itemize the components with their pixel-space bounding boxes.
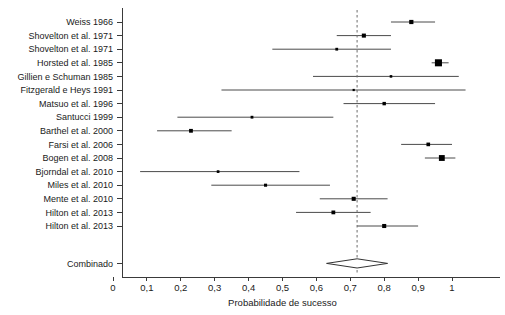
study-label: Horsted et al. 1985 — [37, 58, 113, 68]
effect-estimate-marker — [362, 34, 366, 38]
study-label: Hilton et al. 2013 — [45, 221, 113, 231]
summary-diamond — [327, 259, 388, 268]
forest-row — [357, 224, 418, 228]
forest-plot-figure: Weiss 1966Shovelton et al. 1971Shovelton… — [0, 0, 505, 315]
effect-estimate-marker — [435, 59, 442, 66]
effect-estimate-marker — [382, 102, 385, 105]
study-label: Santucci 1999 — [56, 112, 113, 122]
x-axis-tick-label: 0,5 — [276, 282, 289, 293]
forest-row — [425, 155, 456, 161]
study-label: Matsuo et al. 1996 — [39, 99, 113, 109]
effect-estimate-marker — [439, 155, 445, 161]
x-axis-tick-label: 0,2 — [174, 282, 187, 293]
study-label: Barthel et al. 2000 — [40, 126, 113, 136]
effect-estimate-marker — [390, 75, 393, 78]
forest-plot-canvas: Weiss 1966Shovelton et al. 1971Shovelton… — [0, 0, 505, 315]
forest-row — [337, 34, 391, 38]
summary-label: Combinado — [67, 259, 113, 269]
study-label: Weiss 1966 — [66, 17, 113, 27]
forest-row — [320, 197, 388, 201]
forest-row — [140, 170, 299, 173]
study-label: Gillien e Schuman 1985 — [17, 72, 113, 82]
effect-estimate-marker — [251, 116, 254, 119]
x-axis-ticks-group: 00,10,20,30,40,50,60,70,80,91 — [110, 277, 454, 293]
x-axis-tick-label: 0,1 — [140, 282, 153, 293]
x-axis-tick-label: 0,4 — [242, 282, 255, 293]
study-label: Fitzgerald e Heys 1991 — [20, 85, 113, 95]
study-label: Shovelton et al. 1971 — [28, 31, 113, 41]
effect-estimate-marker — [335, 48, 338, 51]
forest-rows-group — [140, 20, 465, 228]
forest-row — [401, 143, 452, 147]
study-label: Mente et al. 2010 — [43, 194, 113, 204]
x-axis-tick-label: 0 — [110, 282, 115, 293]
forest-row — [391, 20, 435, 24]
x-axis-tick-label: 0,3 — [208, 282, 221, 293]
study-label: Farsi et al. 2006 — [48, 140, 113, 150]
effect-estimate-marker — [352, 197, 356, 201]
summary-diamond-group: Combinado — [67, 259, 388, 269]
study-label: Shovelton et al. 1971 — [28, 44, 113, 54]
forest-row — [221, 89, 465, 91]
effect-estimate-marker — [264, 184, 267, 187]
study-label: Miles et al. 2010 — [47, 180, 113, 190]
forest-row — [272, 48, 391, 51]
forest-row — [313, 75, 459, 78]
effect-estimate-marker — [331, 211, 335, 215]
x-axis-tick-label: 0,8 — [378, 282, 391, 293]
x-axis-group — [122, 8, 500, 277]
effect-estimate-marker — [189, 129, 193, 133]
effect-estimate-marker — [426, 143, 430, 147]
forest-row — [432, 59, 449, 66]
forest-row — [211, 184, 330, 187]
x-axis-tick-label: 0,6 — [310, 282, 323, 293]
x-axis-tick-label: 0,7 — [344, 282, 357, 293]
x-axis-tick-label: 0,9 — [411, 282, 424, 293]
forest-row — [157, 129, 232, 133]
study-label: Bjorndal et al. 2010 — [35, 167, 113, 177]
effect-estimate-marker — [353, 89, 355, 91]
study-label: Bogen et al. 2008 — [42, 153, 113, 163]
effect-estimate-marker — [217, 170, 220, 173]
x-axis-title: Probabilidade de sucesso — [228, 297, 337, 308]
study-label-group: Weiss 1966Shovelton et al. 1971Shovelton… — [17, 17, 122, 231]
forest-row — [296, 211, 371, 215]
study-label: Hilton et al. 2013 — [45, 208, 113, 218]
effect-estimate-marker — [382, 224, 386, 228]
forest-row — [177, 116, 333, 119]
effect-estimate-marker — [409, 20, 413, 24]
x-axis-tick-label: 1 — [449, 282, 454, 293]
